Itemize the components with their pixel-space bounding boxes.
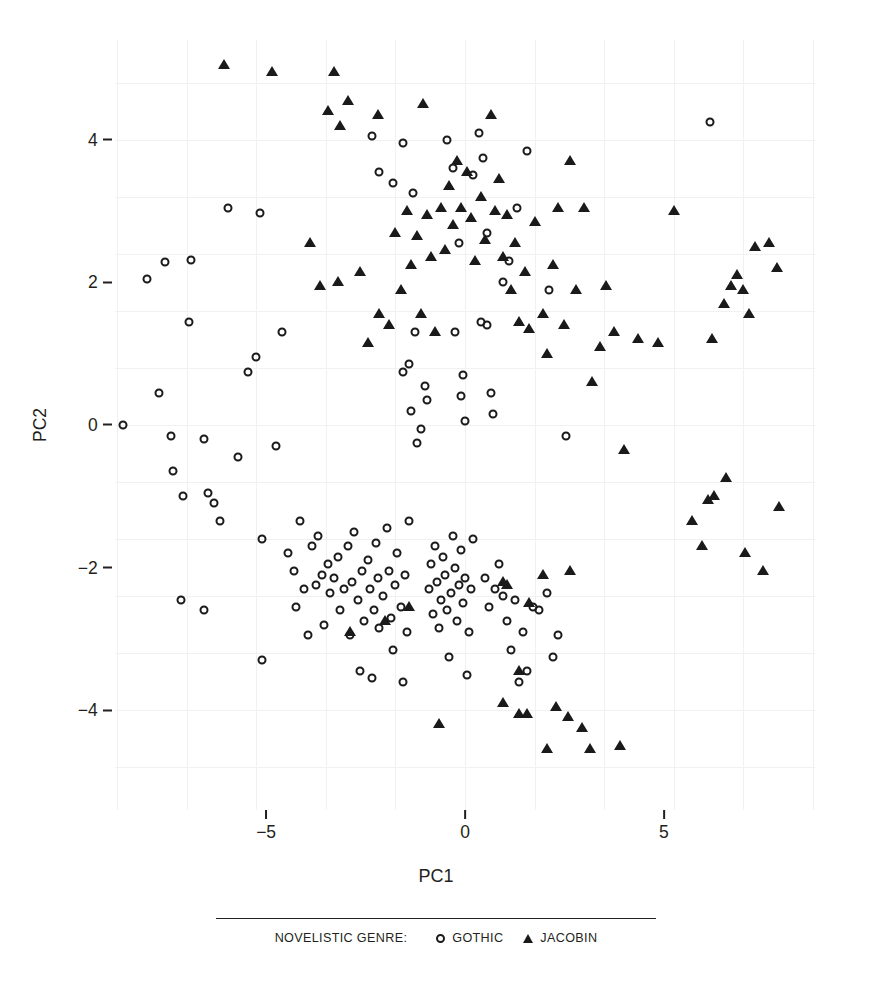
- data-point-jacobin: [373, 308, 385, 318]
- data-point-gothic: [466, 584, 475, 593]
- gridline-horizontal: [115, 767, 815, 768]
- x-tick-label: −5: [256, 822, 276, 842]
- data-point-gothic: [184, 317, 193, 326]
- gridline-horizontal: [115, 482, 815, 483]
- data-point-jacobin: [304, 237, 316, 247]
- x-tick-0: −5: [256, 810, 276, 843]
- data-point-jacobin: [344, 626, 356, 636]
- data-point-gothic: [200, 606, 209, 615]
- data-point-gothic: [258, 535, 267, 544]
- data-point-jacobin: [570, 284, 582, 294]
- data-point-jacobin: [773, 501, 785, 511]
- data-point-jacobin: [576, 722, 588, 732]
- data-point-jacobin: [485, 109, 497, 119]
- data-point-jacobin: [505, 284, 517, 294]
- legend-item-jacobin[interactable]: JACOBIN: [523, 931, 597, 945]
- data-point-gothic: [522, 146, 531, 155]
- data-point-gothic: [391, 581, 400, 590]
- data-point-jacobin: [749, 241, 761, 251]
- data-point-gothic: [409, 189, 418, 198]
- data-point-gothic: [379, 592, 388, 601]
- data-point-jacobin: [433, 718, 445, 728]
- data-point-gothic: [411, 328, 420, 337]
- legend-item-gothic[interactable]: GOTHIC: [436, 931, 503, 945]
- data-point-gothic: [437, 595, 446, 604]
- data-point-gothic: [272, 442, 281, 451]
- data-point-jacobin: [720, 472, 732, 482]
- data-point-jacobin: [328, 66, 340, 76]
- data-point-gothic: [461, 417, 470, 426]
- data-point-gothic: [518, 627, 527, 636]
- data-point-jacobin: [497, 697, 509, 707]
- data-point-gothic: [234, 453, 243, 462]
- data-point-gothic: [168, 467, 177, 476]
- data-point-gothic: [349, 527, 358, 536]
- data-point-gothic: [363, 556, 372, 565]
- data-point-gothic: [459, 371, 468, 380]
- data-point-gothic: [474, 128, 483, 137]
- data-point-gothic: [431, 542, 440, 551]
- data-point-gothic: [284, 549, 293, 558]
- data-point-gothic: [329, 574, 338, 583]
- data-point-jacobin: [771, 262, 783, 272]
- data-point-jacobin: [586, 376, 598, 386]
- data-point-jacobin: [652, 337, 664, 347]
- data-point-jacobin: [435, 202, 447, 212]
- data-point-jacobin: [439, 244, 451, 254]
- data-point-gothic: [343, 542, 352, 551]
- data-point-gothic: [295, 517, 304, 526]
- data-point-jacobin: [686, 515, 698, 525]
- data-point-gothic: [443, 606, 452, 615]
- data-point-gothic: [371, 538, 380, 547]
- data-point-jacobin: [479, 234, 491, 244]
- data-point-jacobin: [395, 284, 407, 294]
- legend-title: NOVELISTIC GENRE:: [275, 931, 408, 945]
- data-point-jacobin: [465, 212, 477, 222]
- data-point-gothic: [160, 258, 169, 267]
- data-point-gothic: [512, 203, 521, 212]
- data-point-jacobin: [632, 333, 644, 343]
- data-point-gothic: [457, 392, 466, 401]
- data-point-gothic: [407, 406, 416, 415]
- data-point-gothic: [357, 567, 366, 576]
- x-tick-mark: [464, 810, 466, 819]
- data-point-jacobin: [743, 308, 755, 318]
- data-point-gothic: [482, 321, 491, 330]
- data-point-gothic: [325, 588, 334, 597]
- data-point-jacobin: [417, 98, 429, 108]
- data-point-gothic: [421, 381, 430, 390]
- data-point-gothic: [313, 531, 322, 540]
- gridline-horizontal: [115, 368, 815, 369]
- data-point-jacobin: [429, 326, 441, 336]
- data-point-gothic: [142, 274, 151, 283]
- data-point-gothic: [459, 599, 468, 608]
- data-point-gothic: [494, 560, 503, 569]
- data-point-jacobin: [447, 219, 459, 229]
- data-point-gothic: [389, 645, 398, 654]
- data-point-gothic: [291, 602, 300, 611]
- data-point-gothic: [166, 431, 175, 440]
- data-point-gothic: [256, 208, 265, 217]
- data-point-jacobin: [564, 565, 576, 575]
- data-point-jacobin: [529, 216, 541, 226]
- data-point-gothic: [278, 328, 287, 337]
- data-point-jacobin: [558, 319, 570, 329]
- x-axis-label: PC1: [0, 866, 872, 887]
- data-point-jacobin: [455, 202, 467, 212]
- y-tick-mark: [103, 709, 112, 711]
- data-point-jacobin: [334, 120, 346, 130]
- x-tick-mark: [265, 810, 267, 819]
- data-point-gothic: [355, 666, 364, 675]
- data-point-gothic: [542, 588, 551, 597]
- data-point-gothic: [401, 570, 410, 579]
- data-point-jacobin: [706, 333, 718, 343]
- legend-divider: [216, 918, 656, 919]
- y-tick-mark: [103, 566, 112, 568]
- data-point-jacobin: [401, 205, 413, 215]
- gridline-horizontal: [115, 596, 815, 597]
- gridline-horizontal: [115, 140, 815, 141]
- data-point-gothic: [417, 424, 426, 433]
- data-point-gothic: [457, 545, 466, 554]
- data-point-jacobin: [403, 601, 415, 611]
- data-point-jacobin: [362, 337, 374, 347]
